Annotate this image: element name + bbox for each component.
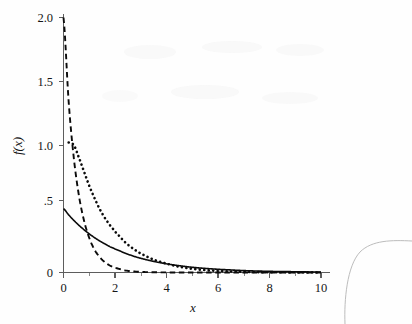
y-tick-label-10: 1.0	[37, 139, 53, 153]
x-tick-label-10: 10	[315, 281, 328, 295]
x-tick-label-4: 4	[163, 281, 170, 295]
density-plot: 0 .5 1.0 1.5 2.0 0 2 4 6 8 10 f(x) x	[0, 0, 412, 324]
x-tick-label-8: 8	[266, 281, 272, 295]
x-tick-label-2: 2	[112, 281, 118, 295]
scan-artifact-curve	[345, 241, 412, 324]
y-axis-ticks	[59, 18, 64, 273]
scan-smudges	[102, 41, 324, 104]
y-tick-label-0: 0	[47, 266, 53, 280]
y-axis-title: f(x)	[10, 137, 25, 155]
dotted-curve	[69, 142, 321, 272]
x-tick-label-0: 0	[60, 281, 66, 295]
x-axis-title: x	[189, 300, 196, 315]
y-tick-label-20: 2.0	[37, 11, 53, 25]
y-tick-label-05: .5	[44, 194, 53, 208]
figure-root: 0 .5 1.0 1.5 2.0 0 2 4 6 8 10 f(x) x	[0, 0, 412, 324]
solid-curve	[64, 209, 322, 272]
y-tick-label-15: 1.5	[37, 75, 53, 89]
x-tick-label-6: 6	[215, 281, 221, 295]
dashed-curve	[64, 18, 322, 273]
